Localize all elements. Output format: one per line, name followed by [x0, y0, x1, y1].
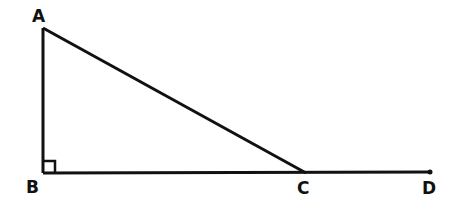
segment-ac — [43, 28, 306, 173]
point-d-dot — [428, 170, 433, 175]
label-b: B — [26, 177, 39, 197]
segment-bd — [43, 172, 430, 173]
label-c: C — [297, 178, 309, 198]
right-angle-marker — [43, 161, 55, 173]
triangle-diagram: A B C D — [0, 0, 459, 215]
label-a: A — [32, 6, 46, 26]
label-d: D — [422, 178, 436, 198]
